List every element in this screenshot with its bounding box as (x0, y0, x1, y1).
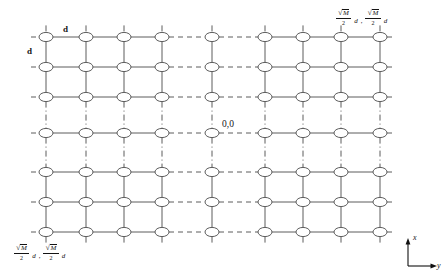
origin-label: 0,0 (222, 120, 234, 130)
lattice-node (117, 197, 131, 206)
spacing-label-vertical: d (27, 47, 32, 56)
lattice-node (296, 197, 310, 206)
lattice-node (258, 197, 272, 206)
lattice-node (258, 227, 272, 236)
lattice-node (79, 128, 93, 137)
lattice-node (39, 167, 53, 176)
fraction-top-right-second: √M 2 (365, 8, 380, 26)
lattice-node (258, 128, 272, 137)
lattice-node (117, 227, 131, 236)
axis-indicator (406, 238, 437, 268)
lattice-node (334, 92, 348, 101)
lattice-node (205, 62, 219, 71)
radical-icon: √M (16, 243, 27, 252)
lattice-node (296, 32, 310, 41)
lattice-node (155, 62, 169, 71)
lattice-node (296, 128, 310, 137)
lattice-node (155, 197, 169, 206)
lattice-node (39, 32, 53, 41)
lattice-node (258, 92, 272, 101)
lattice-node (205, 197, 219, 206)
lattice-node (334, 167, 348, 176)
lattice-node (205, 92, 219, 101)
lattice-node (155, 167, 169, 176)
lattice-node (79, 167, 93, 176)
lattice-graphic (0, 0, 448, 278)
lattice-node (373, 92, 387, 101)
fraction-bottom-left-first: √M 2 (14, 243, 29, 261)
lattice-node (155, 227, 169, 236)
lattice-node (296, 92, 310, 101)
lattice-node (296, 62, 310, 71)
lattice-node (79, 227, 93, 236)
lattice-node (373, 167, 387, 176)
lattice-node (39, 128, 53, 137)
lattice-node (334, 128, 348, 137)
lattice-node (39, 197, 53, 206)
lattice-node (373, 32, 387, 41)
lattice-node (79, 92, 93, 101)
lattice-node (155, 32, 169, 41)
lattice-node (373, 227, 387, 236)
lattice-node (296, 227, 310, 236)
lattice-node (39, 92, 53, 101)
radical-icon: √M (45, 243, 56, 252)
lattice-node (258, 62, 272, 71)
radical-icon: √M (367, 8, 378, 17)
lattice-node (205, 167, 219, 176)
lattice-node (155, 128, 169, 137)
lattice-node (373, 197, 387, 206)
lattice-node (117, 32, 131, 41)
lattice-node (79, 62, 93, 71)
fraction-bottom-left-second: √M 2 (43, 243, 58, 261)
lattice-node (79, 32, 93, 41)
lattice-node (117, 128, 131, 137)
lattice-node (39, 227, 53, 236)
spacing-label-horizontal: d (63, 25, 68, 34)
lattice-node (155, 92, 169, 101)
lattice-node (296, 167, 310, 176)
axis-label-y: y (437, 262, 441, 270)
lattice-node (373, 62, 387, 71)
lattice-node (39, 62, 53, 71)
lattice-node (373, 128, 387, 137)
lattice-node (334, 32, 348, 41)
fraction-top-right-first: √M 2 (336, 8, 351, 26)
lattice-node (117, 167, 131, 176)
lattice-node (117, 62, 131, 71)
lattice-node (334, 197, 348, 206)
radical-icon: √M (338, 8, 349, 17)
lattice-node (205, 128, 219, 137)
lattice-node (79, 197, 93, 206)
lattice-node (205, 227, 219, 236)
axis-label-x: x (413, 234, 417, 242)
lattice-node (258, 167, 272, 176)
lattice-node (258, 32, 272, 41)
corner-label-top-right: √M 2 d , √M 2 d (336, 8, 387, 26)
diagram-canvas: d d 0,0 x y √M 2 d , √M 2 d (0, 0, 448, 278)
lattice-node (334, 62, 348, 71)
lattice-node (205, 32, 219, 41)
lattice-node (117, 92, 131, 101)
lattice-nodes (39, 32, 387, 236)
lattice-node (334, 227, 348, 236)
corner-label-bottom-left: √M 2 d , √M 2 d (14, 243, 65, 261)
